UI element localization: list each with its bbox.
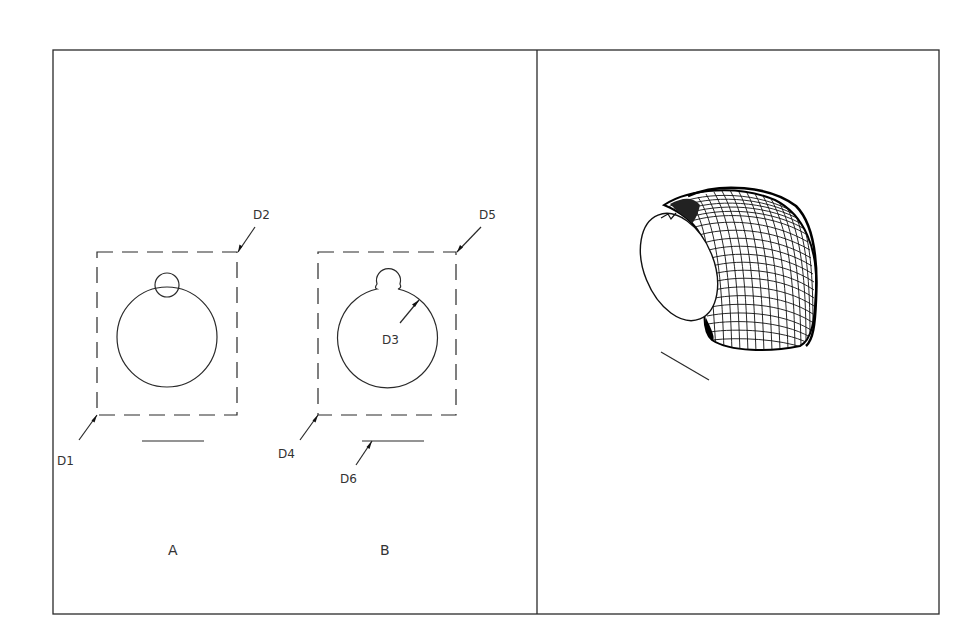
- sweep-path-line: [661, 352, 709, 380]
- caption-a: A: [168, 542, 178, 558]
- label-d6: D6: [340, 472, 357, 486]
- elbow-mesh-3d: [626, 188, 817, 380]
- large-circle-a: [117, 287, 217, 387]
- label-d3: D3: [382, 333, 399, 347]
- label-d5: D5: [479, 208, 496, 222]
- small-circle-a: [155, 273, 179, 297]
- union-profile-b: [338, 269, 438, 388]
- dashed-rectangle-a: [97, 252, 237, 415]
- view-b: D3 D4 D5 D6 B: [278, 208, 496, 558]
- cad-figure: D1 D2 A D3 D4 D5 D6 B: [0, 0, 979, 642]
- label-d4: D4: [278, 447, 295, 461]
- caption-b: B: [380, 542, 390, 558]
- label-d1: D1: [57, 454, 74, 468]
- view-a: D1 D2 A: [57, 208, 270, 558]
- label-d2: D2: [253, 208, 270, 222]
- arrow-d3-icon: [412, 300, 419, 307]
